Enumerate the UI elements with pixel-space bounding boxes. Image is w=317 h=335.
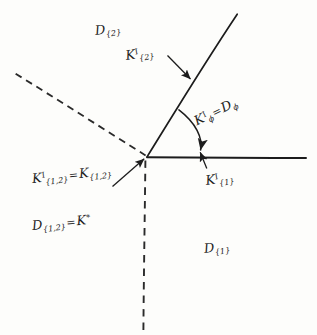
ray-upper-right-solid bbox=[147, 14, 237, 156]
label-region-d1: D{1} bbox=[203, 237, 231, 258]
ray-down-vertical-dashed bbox=[143, 161, 145, 332]
leader-k2 bbox=[168, 56, 191, 80]
label-d2-sub: {2} bbox=[105, 28, 121, 39]
label-d12-sup2: * bbox=[86, 213, 91, 222]
label-region-d2: D{2} bbox=[94, 19, 122, 40]
label-d1-base: D bbox=[203, 240, 215, 256]
diagram-canvas: D{2} KI{2} KIϕ=Dϕ KI{1,2}=K{1,2} KI{1} D… bbox=[0, 0, 317, 335]
ray-right-horizontal-solid bbox=[147, 157, 306, 158]
label-d2-base: D bbox=[94, 22, 106, 38]
ray-upper-left-dashed bbox=[12, 72, 145, 156]
leader-k1 bbox=[200, 152, 207, 168]
label-d12-base: D bbox=[31, 217, 43, 233]
label-d1-sub: {1} bbox=[214, 246, 230, 257]
leader-k12 bbox=[113, 159, 145, 187]
